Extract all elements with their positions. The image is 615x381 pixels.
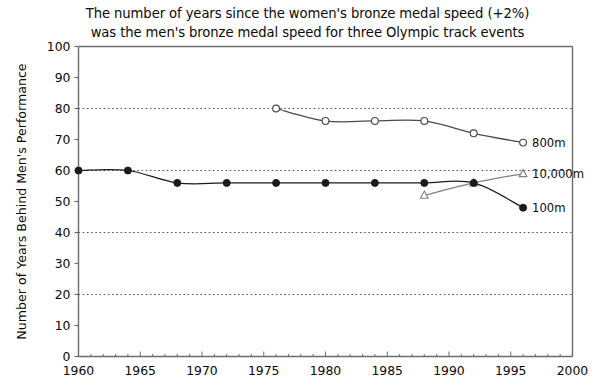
x-tick-label-1990: 1990 [433,363,465,378]
marker-0-1 [322,118,329,125]
axis-titles-group: Number of Years Behind Men's Performance [14,63,29,339]
x-tick-label-1995: 1995 [495,363,527,378]
y-tick-label-0: 0 [63,349,71,364]
marker-0-0 [273,105,280,112]
series-label-800m: 800m [532,136,565,150]
x-tick-label-1975: 1975 [248,363,280,378]
series-group [75,105,527,211]
marker-0-3 [421,118,428,125]
y-tick-label-30: 30 [55,256,71,271]
y-tick-label-100: 100 [47,39,71,54]
y-tick-label-20: 20 [55,287,71,302]
marker-2-1 [124,167,131,174]
series-line-0 [276,109,523,143]
marker-0-4 [470,130,477,137]
y-tick-label-10: 10 [55,318,71,333]
y-tick-label-40: 40 [55,225,71,240]
series-label-10000m: 10,000m [532,167,584,181]
marker-2-6 [371,179,378,186]
marker-2-4 [273,179,280,186]
chart-figure: The number of years since the women's br… [0,0,615,381]
marker-0-2 [372,118,379,125]
x-tick-label-1965: 1965 [124,363,156,378]
y-ticks-group: 0102030405060708090100 [47,39,79,364]
marker-2-0 [75,167,82,174]
marker-2-7 [421,179,428,186]
x-tick-label-1985: 1985 [371,363,403,378]
series-800m [273,105,527,146]
marker-2-2 [174,179,181,186]
chart-plot-area: 196019651970197519801985199019952000 010… [0,0,615,381]
series-labels-group: 800m10,000m100m [532,136,584,215]
marker-2-5 [322,179,329,186]
series-line-2 [79,170,524,208]
series-label-100m: 100m [532,201,565,215]
x-tick-label-1980: 1980 [310,363,342,378]
y-tick-label-90: 90 [55,70,71,85]
marker-2-8 [470,179,477,186]
gridlines-group [79,109,573,295]
marker-2-9 [520,204,527,211]
x-ticks-group: 196019651970197519801985199019952000 [63,352,589,378]
axes-group [79,47,573,357]
x-tick-label-2000: 2000 [557,363,589,378]
marker-2-3 [223,179,230,186]
x-tick-label-1970: 1970 [186,363,218,378]
series-100m [75,167,527,211]
y-axis-title: Number of Years Behind Men's Performance [14,63,29,339]
y-tick-label-50: 50 [55,194,71,209]
marker-0-5 [520,139,527,146]
y-tick-label-80: 80 [55,101,71,116]
y-tick-label-60: 60 [55,163,71,178]
y-tick-label-70: 70 [55,132,71,147]
x-tick-label-1960: 1960 [63,363,95,378]
